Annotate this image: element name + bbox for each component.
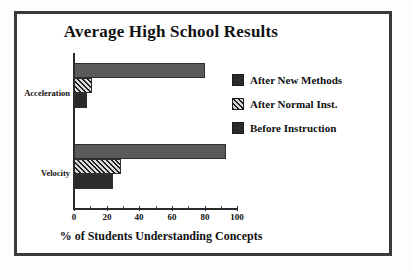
x-tick-label-100: 100 [225, 212, 249, 222]
bar-velocity-before-instruction [74, 174, 113, 189]
x-minor-tick-90 [221, 206, 222, 209]
figure-canvas: Average High School Results 0 20 40 60 8… [0, 0, 413, 276]
bar-velocity-after-new-methods [74, 144, 226, 159]
x-tick-label-60: 60 [160, 212, 184, 222]
x-tick-0 [74, 206, 75, 211]
x-tick-20 [107, 206, 108, 211]
legend-swatch-before-instruction-icon [232, 122, 244, 134]
x-minor-tick-50 [156, 206, 157, 209]
legend-item-after-normal-inst: After Normal Inst. [232, 94, 382, 114]
x-axis-label: % of Students Understanding Concepts [36, 229, 286, 244]
x-tick-label-0: 0 [62, 212, 86, 222]
legend: After New Methods After Normal Inst. Bef… [232, 70, 382, 142]
bar-acceleration-after-new-methods [74, 63, 205, 78]
x-tick-label-40: 40 [127, 212, 151, 222]
x-minor-tick-10 [90, 206, 91, 209]
y-category-label-acceleration: Acceleration [4, 88, 70, 98]
bar-velocity-after-normal-inst [74, 159, 121, 174]
legend-label-before-instruction: Before Instruction [250, 122, 336, 134]
x-tick-label-20: 20 [95, 212, 119, 222]
bar-acceleration-before-instruction [74, 93, 87, 108]
bar-acceleration-after-normal-inst [74, 78, 92, 93]
legend-label-after-normal-inst: After Normal Inst. [250, 98, 337, 110]
x-tick-60 [172, 206, 173, 211]
legend-label-after-new-methods: After New Methods [250, 74, 342, 86]
x-tick-100 [237, 206, 238, 211]
legend-swatch-after-normal-inst-icon [232, 98, 244, 110]
x-minor-tick-30 [123, 206, 124, 209]
x-tick-80 [205, 206, 206, 211]
x-tick-label-80: 80 [193, 212, 217, 222]
legend-item-after-new-methods: After New Methods [232, 70, 382, 90]
legend-item-before-instruction: Before Instruction [232, 118, 382, 138]
y-category-label-velocity: Velocity [4, 168, 70, 178]
x-minor-tick-70 [188, 206, 189, 209]
x-tick-40 [139, 206, 140, 211]
legend-swatch-after-new-methods-icon [232, 74, 244, 86]
